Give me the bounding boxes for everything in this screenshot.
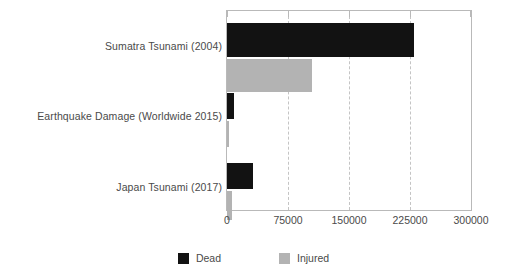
- legend-swatch-icon: [178, 253, 189, 264]
- x-axis-tick-label: 225000: [375, 214, 445, 226]
- chart-legend: Dead Injured: [0, 248, 507, 268]
- y-axis-label-1: Earthquake Damage (Worldwide 2015): [0, 110, 222, 122]
- bar-dead-0: [227, 23, 414, 57]
- y-axis-label-0: Sumatra Tsunami (2004): [0, 40, 222, 52]
- legend-label: Dead: [196, 252, 221, 264]
- plot-area: [226, 10, 472, 211]
- axis-tick: [288, 11, 289, 17]
- x-axis-tick-label: 150000: [314, 214, 384, 226]
- legend-swatch-icon: [279, 253, 290, 264]
- legend-label: Injured: [297, 252, 329, 264]
- category-label: Japan Tsunami (2017): [6, 181, 222, 193]
- y-axis-label-2: Japan Tsunami (2017): [0, 181, 222, 193]
- axis-tick: [470, 11, 471, 17]
- bar-injured-1: [227, 121, 229, 147]
- category-label: Sumatra Tsunami (2004): [6, 40, 222, 52]
- bar-chart: Sumatra Tsunami (2004) Earthquake Damage…: [0, 0, 507, 273]
- legend-item-injured: Injured: [279, 252, 329, 264]
- category-label: Earthquake Damage (Worldwide 2015): [6, 110, 222, 122]
- x-axis-tick-label: 75000: [253, 214, 323, 226]
- axis-tick: [227, 11, 228, 17]
- bar-dead-2: [227, 163, 253, 189]
- x-axis-tick-label: 300000: [436, 214, 506, 226]
- bar-dead-1: [227, 93, 234, 119]
- axis-tick: [410, 11, 411, 17]
- x-axis-tick-label: 0: [192, 214, 262, 226]
- axis-tick: [349, 11, 350, 17]
- legend-item-dead: Dead: [178, 252, 221, 264]
- bar-injured-0: [227, 59, 312, 92]
